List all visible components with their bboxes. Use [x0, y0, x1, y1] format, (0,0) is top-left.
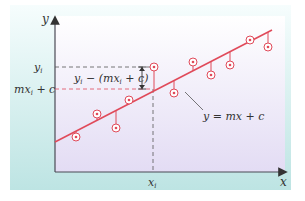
data-point-center — [173, 92, 176, 95]
data-point-center — [267, 46, 270, 49]
data-point-center — [229, 64, 232, 67]
data-point-center — [128, 99, 131, 102]
data-point-center — [249, 39, 252, 42]
line-equation-label: y = mx + c — [202, 110, 264, 123]
data-point-center — [115, 127, 118, 130]
data-point-center — [153, 66, 156, 69]
y-axis-label: y — [41, 12, 49, 26]
residual-label: yi − (mxi + c) — [73, 72, 149, 86]
fit-value-tick-label: mxi + c — [14, 83, 55, 97]
data-point-center — [75, 136, 78, 139]
data-point-center — [210, 74, 213, 77]
data-point-center — [192, 61, 195, 64]
x-axis-label: x — [280, 175, 287, 189]
data-point-center — [96, 113, 99, 116]
regression-diagram: y x yi mxi + c xi yi − (mxi + c) y = mx … — [0, 0, 305, 201]
